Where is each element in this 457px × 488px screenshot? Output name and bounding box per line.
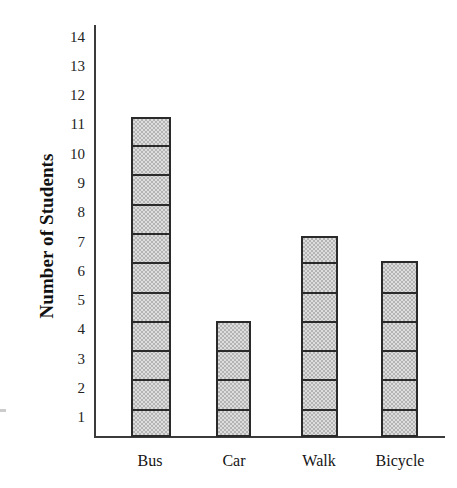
bar-segment-divider — [133, 233, 169, 235]
bar-walk — [301, 236, 338, 437]
bar-segment-divider — [133, 145, 169, 147]
bar-segment-divider — [133, 204, 169, 206]
bar-segment-divider — [383, 350, 416, 352]
bar-bus — [131, 117, 171, 437]
bar-segment-divider — [133, 350, 169, 352]
bar-segment-divider — [133, 409, 169, 411]
bar-bicycle — [381, 261, 418, 437]
bar-segment-divider — [218, 379, 249, 381]
bar-segment-divider — [133, 174, 169, 176]
bar-chart: Number of Students 1413121110987654321 B… — [0, 0, 457, 488]
bars-container — [0, 0, 457, 488]
bar-segment-divider — [303, 262, 336, 264]
bar-segment-divider — [383, 321, 416, 323]
bar-segment-divider — [383, 379, 416, 381]
bar-segment-divider — [303, 321, 336, 323]
bar-segment-divider — [383, 409, 416, 411]
bar-segment-divider — [133, 292, 169, 294]
bar-segment-divider — [383, 292, 416, 294]
bar-segment-divider — [133, 262, 169, 264]
bar-segment-divider — [303, 292, 336, 294]
x-axis-tick-label-bicycle: Bicycle — [340, 452, 457, 470]
bar-segment-divider — [133, 321, 169, 323]
bar-segment-divider — [303, 379, 336, 381]
bar-segment-divider — [218, 409, 249, 411]
bar-segment-divider — [218, 350, 249, 352]
bar-segment-divider — [133, 379, 169, 381]
bar-segment-divider — [303, 409, 336, 411]
bar-segment-divider — [303, 350, 336, 352]
bar-car — [216, 321, 251, 437]
